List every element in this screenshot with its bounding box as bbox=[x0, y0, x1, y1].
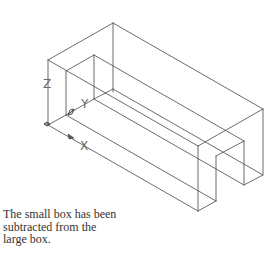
slot-back-top-edge bbox=[94, 55, 244, 141]
outer-top-left-edge bbox=[48, 23, 113, 60]
outer-right-top-edge bbox=[198, 109, 263, 146]
ucs-y-arrow-icon bbox=[68, 109, 74, 115]
slot-right-top-edge bbox=[216, 141, 244, 156]
right-bottom-edge-b bbox=[244, 175, 263, 185]
ucs-x-arrow-icon bbox=[68, 134, 74, 139]
slot-front-floor-edge bbox=[66, 115, 216, 201]
slot-back-floor-edge bbox=[94, 99, 244, 185]
y-axis-label: Y bbox=[80, 97, 89, 111]
slot-left-top-edge bbox=[66, 55, 94, 71]
outer-top-back-edge bbox=[113, 23, 263, 109]
left-bottom-edge-a bbox=[48, 115, 66, 125]
outer-top-front-edge bbox=[48, 60, 198, 146]
z-axis-label: Z bbox=[43, 77, 51, 91]
caption-line: The small box has been bbox=[3, 208, 143, 221]
x-axis-label: X bbox=[80, 139, 88, 153]
right-bottom-edge-a bbox=[198, 201, 216, 211]
caption-line: large box. bbox=[3, 233, 143, 246]
outer-back-bottom-edge bbox=[113, 89, 263, 175]
left-bottom-edge-b bbox=[94, 89, 113, 99]
figure-caption: The small box has been subtracted from t… bbox=[3, 208, 143, 246]
solid-edges bbox=[48, 23, 263, 211]
